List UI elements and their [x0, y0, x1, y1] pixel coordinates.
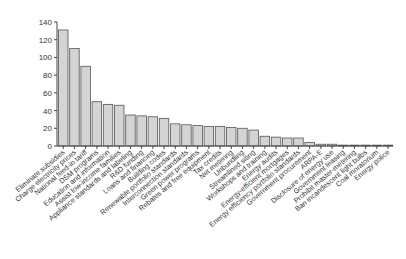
bar	[137, 116, 147, 146]
bar	[294, 138, 304, 146]
y-tick-label: 0	[48, 142, 53, 151]
y-tick-label: 120	[39, 36, 53, 45]
bar	[215, 127, 225, 146]
bar	[115, 105, 125, 146]
bar	[159, 119, 169, 146]
bar	[171, 124, 181, 146]
y-tick-label: 140	[39, 18, 53, 27]
y-tick-label: 100	[39, 53, 53, 62]
bar	[204, 127, 214, 146]
bar	[260, 136, 270, 146]
bar	[193, 126, 203, 146]
bar	[92, 102, 102, 146]
bar	[249, 130, 259, 146]
x-axis-labels: Eliminate subsidiesCharge electricity pr…	[13, 147, 391, 229]
bar	[59, 30, 69, 146]
y-tick-label: 80	[43, 71, 52, 80]
x-axis	[57, 146, 393, 149]
bar	[238, 128, 248, 146]
bar	[148, 117, 158, 146]
bar	[126, 115, 136, 146]
y-tick-label: 40	[43, 107, 52, 116]
bar	[305, 142, 315, 146]
bar	[103, 104, 113, 146]
y-axis: 020406080100120140	[39, 18, 57, 151]
bar-chart: 020406080100120140 Eliminate subsidiesCh…	[0, 0, 406, 259]
bar	[81, 66, 91, 146]
y-tick-label: 60	[43, 89, 52, 98]
bar	[70, 49, 80, 146]
y-tick-label: 20	[43, 124, 52, 133]
bars-group	[59, 30, 393, 146]
bar	[227, 127, 237, 146]
bar	[271, 137, 281, 146]
bar	[283, 138, 293, 146]
bar	[182, 125, 192, 146]
